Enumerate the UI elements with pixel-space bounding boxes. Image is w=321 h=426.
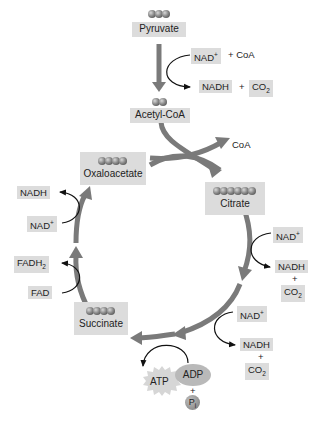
acetylcoa-label: Acetyl-CoA xyxy=(130,108,190,123)
pi-circle: Pi xyxy=(185,395,200,410)
carbon-beads-3 xyxy=(132,10,186,20)
coa-release-label: CoA xyxy=(232,138,250,151)
arrows-layer xyxy=(0,0,321,426)
pdh-co2: CO2 xyxy=(249,80,273,97)
step1-plus: + xyxy=(292,272,298,285)
step1-co2: CO2 xyxy=(281,285,305,302)
fad: FAD xyxy=(28,286,52,299)
pdh-nad: NAD+ xyxy=(191,48,221,64)
carbon-beads-4 xyxy=(80,157,146,166)
pyruvate-box: Pyruvate xyxy=(132,10,186,41)
left-nad: NAD+ xyxy=(27,216,57,232)
succinate-label: Succinate xyxy=(74,318,128,330)
atp-side-arrow xyxy=(143,345,188,366)
pdh-nadh: NADH xyxy=(199,80,232,93)
fad-to-oxaloacetate-arc xyxy=(76,186,92,243)
oxaloacetate-box: Oxaloacetate xyxy=(80,152,146,185)
carbon-beads-4 xyxy=(74,307,128,316)
fadh2: FADH2 xyxy=(14,256,49,273)
pyruvate-to-acetylcoa-arrow xyxy=(152,44,166,92)
step1-side-arrow xyxy=(251,233,271,267)
citrate-box: Citrate xyxy=(205,182,265,215)
atp-label: ATP xyxy=(150,375,169,388)
left-nadh: NADH xyxy=(17,186,50,199)
acetylcoa-box: Acetyl-CoA xyxy=(130,98,190,126)
oxaloacetate-label: Oxaloacetate xyxy=(80,168,146,180)
adp-ellipse: ADP xyxy=(175,364,211,386)
step2-co2: CO2 xyxy=(245,363,269,380)
acetylcoa-entry-arrow xyxy=(161,122,222,178)
step2-nadh: NADH xyxy=(240,338,273,351)
pdh-plus-coa: + CoA xyxy=(228,48,255,61)
pdh-side-arrow xyxy=(167,55,190,87)
succinate-box: Succinate xyxy=(74,302,128,335)
pyruvate-label: Pyruvate xyxy=(132,22,186,37)
succinate-to-fad-arc xyxy=(69,246,89,310)
carbon-beads-2 xyxy=(130,98,190,107)
citrate-label: Citrate xyxy=(205,198,265,210)
carbon-beads-6 xyxy=(205,187,265,196)
atp-step-to-succinate-arc xyxy=(130,331,175,345)
step2-plus: + xyxy=(258,350,264,363)
step1-nad: NAD+ xyxy=(273,227,303,243)
pdh-plus: + xyxy=(239,80,245,93)
step2-nad: NAD+ xyxy=(237,306,267,322)
citrate-to-step1-arc xyxy=(238,206,252,281)
